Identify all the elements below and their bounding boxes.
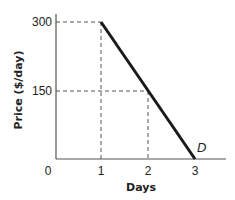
reference-lines	[56, 22, 148, 159]
y-tick-300: 300	[32, 15, 52, 29]
y-tick-150: 150	[32, 84, 52, 98]
demand-chart: D 300 150 0 1 2 3 Days Price ($/day)	[0, 0, 235, 200]
x-tick-2: 2	[145, 164, 152, 178]
demand-curve-label: D	[197, 140, 206, 155]
x-tick-1: 1	[98, 164, 105, 178]
x-axis-label: Days	[126, 181, 156, 194]
y-axis-label: Price ($/day)	[12, 51, 25, 130]
x-tick-3: 3	[192, 164, 199, 178]
x-tick-0: 0	[45, 164, 52, 178]
